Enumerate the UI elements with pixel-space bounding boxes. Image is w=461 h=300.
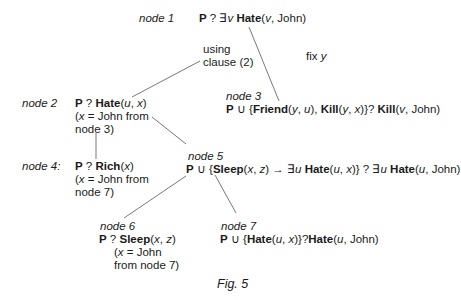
edge-node2-node5 bbox=[152, 117, 186, 144]
node1-label: node 1 bbox=[139, 12, 174, 25]
node6-label: node 6 bbox=[100, 220, 135, 233]
node6-goal: P ? Sleep(x, z) bbox=[99, 233, 176, 246]
using-clause-note: using clause (2) bbox=[203, 43, 254, 69]
node3-goal: P ∪ {Friend(y, u), Kill(y, x)}? Kill(v, … bbox=[226, 103, 440, 116]
node7-label: node 7 bbox=[221, 220, 256, 233]
edge-node5-node7 bbox=[215, 175, 236, 213]
edge-node2-node1 bbox=[132, 61, 200, 97]
node3-label: node 3 bbox=[226, 90, 261, 103]
node6-note: (x = John from node 7) bbox=[114, 246, 179, 272]
node5-goal: P ∪ {Sleep(x, z) → ∃u Hate(u, x)} ? ∃u H… bbox=[186, 163, 460, 176]
node4-note: (x = John from node 7) bbox=[75, 173, 149, 199]
node2-label: node 2 bbox=[22, 97, 57, 110]
node7-goal: P ∪ {Hate(u, x)}?Hate(u, John) bbox=[220, 233, 379, 246]
fix-y-note: fix y bbox=[306, 50, 326, 63]
figure-caption: Fig. 5 bbox=[217, 277, 248, 291]
node2-note: (x = John from node 3) bbox=[75, 110, 149, 136]
node4-label: node 4: bbox=[22, 160, 60, 173]
node4-goal: P ? Rich(x) bbox=[75, 160, 134, 173]
node1-goal: P ? ∃v Hate(v, John) bbox=[199, 12, 306, 25]
node2-goal: P ? Hate(u, x) bbox=[75, 97, 147, 110]
node5-label: node 5 bbox=[188, 150, 223, 163]
